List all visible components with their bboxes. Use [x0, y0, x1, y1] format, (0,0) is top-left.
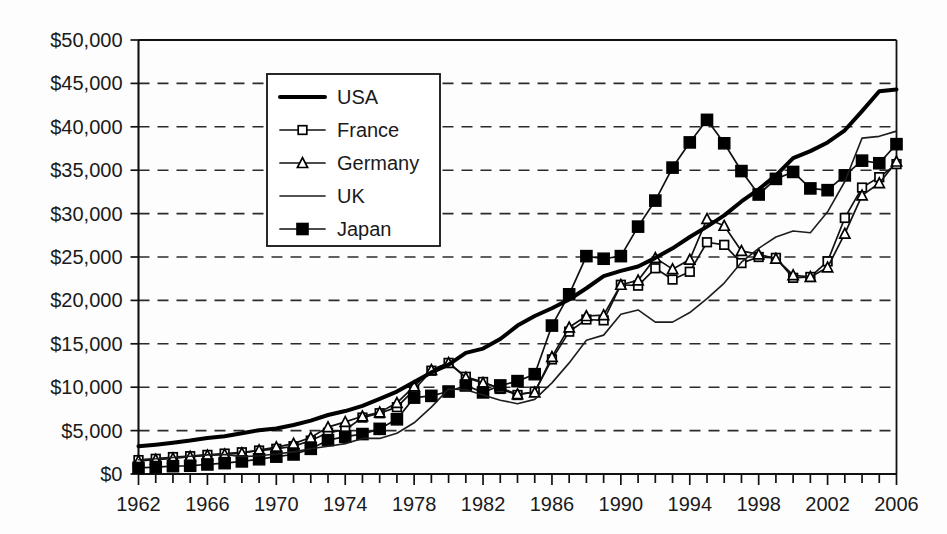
x-tick-label-1990: 1990 [599, 493, 644, 515]
x-tick-label-1998: 1998 [736, 493, 781, 515]
legend-label-uk: UK [337, 185, 365, 207]
marker-japan-1965 [185, 460, 196, 471]
marker-japan-1994 [684, 137, 695, 148]
marker-japan-1967 [219, 458, 230, 469]
marker-japan-1977 [391, 414, 402, 425]
plot-frame [131, 40, 897, 474]
marker-japan-1996 [719, 138, 730, 149]
x-axis-tick-labels: 1962196619701974197819821986199019941998… [116, 493, 919, 515]
data-series-group [133, 89, 902, 473]
y-tick-label-50000: $50,000 [50, 29, 122, 51]
marker-japan-1976 [374, 423, 385, 434]
marker-japan-1979 [426, 390, 437, 401]
y-tick-label-40000: $40,000 [50, 116, 122, 138]
series-line-france [139, 164, 897, 460]
marker-france-1994 [685, 267, 694, 276]
y-tick-label-30000: $30,000 [50, 203, 122, 225]
chart-container: $0$5,000$10,000$15,000$20,000$25,000$30,… [0, 0, 947, 534]
y-tick-label-15000: $15,000 [50, 333, 122, 355]
y-tick-label-35000: $35,000 [50, 159, 122, 181]
marker-japan-1983 [495, 380, 506, 391]
x-tick-label-1986: 1986 [530, 493, 575, 515]
y-tick-label-25000: $25,000 [50, 246, 122, 268]
marker-japan-1984 [512, 376, 523, 387]
x-tick-label-1974: 1974 [323, 493, 368, 515]
y-tick-label-10000: $10,000 [50, 376, 122, 398]
marker-japan-1962 [133, 462, 144, 473]
y-axis-tick-labels: $0$5,000$10,000$15,000$20,000$25,000$30,… [50, 29, 122, 485]
x-tick-label-1978: 1978 [392, 493, 437, 515]
x-tick-label-1982: 1982 [461, 493, 506, 515]
marker-germany-1993 [667, 264, 677, 274]
series-line-japan [139, 120, 897, 468]
y-tick-label-5000: $5,000 [61, 420, 122, 442]
x-tick-label-2002: 2002 [805, 493, 850, 515]
marker-japan-1992 [650, 195, 661, 206]
marker-germany-1996 [719, 220, 729, 230]
x-tick-label-1966: 1966 [185, 493, 230, 515]
marker-japan-2000 [788, 166, 799, 177]
marker-japan-1986 [546, 320, 557, 331]
marker-japan-2002 [822, 185, 833, 196]
marker-germany-2003 [840, 228, 850, 238]
y-tick-label-45000: $45,000 [50, 72, 122, 94]
marker-germany-1994 [685, 254, 695, 264]
marker-germany-1995 [702, 214, 712, 224]
marker-japan-1980 [443, 386, 454, 397]
legend-label-usa: USA [337, 86, 379, 108]
series-france [134, 160, 901, 465]
marker-japan-1963 [150, 461, 161, 472]
marker-japan-1991 [632, 221, 643, 232]
marker-japan-1966 [202, 459, 213, 470]
marker-japan-1985 [529, 369, 540, 380]
legend-label-germany: Germany [337, 152, 419, 174]
marker-japan-2006 [891, 139, 902, 150]
marker-japan-1989 [598, 253, 609, 264]
marker-france-2003 [841, 214, 850, 223]
marker-france-1996 [720, 241, 729, 250]
marker-japan-1978 [409, 392, 420, 403]
marker-japan-1993 [667, 162, 678, 173]
marker-japan-1988 [581, 251, 592, 262]
x-axis-ticks [139, 474, 897, 485]
marker-france-1992 [651, 264, 660, 273]
legend-marker-japan [297, 223, 308, 234]
marker-japan-1995 [701, 114, 712, 125]
legend-marker-france [298, 126, 307, 135]
x-tick-label-2006: 2006 [874, 493, 919, 515]
marker-japan-1970 [271, 451, 282, 462]
series-line-germany [139, 162, 897, 461]
marker-japan-1997 [736, 165, 747, 176]
x-tick-label-1970: 1970 [254, 493, 299, 515]
y-tick-label-20000: $20,000 [50, 289, 122, 311]
marker-japan-2004 [856, 155, 867, 166]
series-japan [133, 114, 902, 473]
legend-label-japan: Japan [337, 218, 392, 240]
x-tick-label-1962: 1962 [116, 493, 161, 515]
series-uk [139, 131, 897, 460]
chart-legend: USAFranceGermanyUKJapan [267, 74, 440, 246]
legend-label-france: France [337, 119, 399, 141]
line-chart: $0$5,000$10,000$15,000$20,000$25,000$30,… [0, 0, 947, 534]
marker-france-1993 [668, 275, 677, 284]
series-germany [133, 156, 901, 465]
marker-japan-1964 [167, 461, 178, 472]
x-tick-label-1994: 1994 [668, 493, 713, 515]
marker-japan-1973 [322, 435, 333, 446]
marker-japan-2001 [805, 183, 816, 194]
marker-japan-2005 [874, 158, 885, 169]
series-line-uk [139, 131, 897, 460]
marker-france-1995 [703, 238, 712, 247]
y-tick-label-0: $0 [100, 463, 122, 485]
marker-japan-1968 [236, 456, 247, 467]
marker-japan-1974 [340, 431, 351, 442]
marker-japan-1990 [615, 251, 626, 262]
